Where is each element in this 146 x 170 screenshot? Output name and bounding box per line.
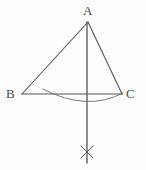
vertex-label-a: A bbox=[83, 4, 92, 17]
construction-drawing bbox=[0, 0, 146, 170]
vertex-label-b: B bbox=[6, 87, 15, 100]
geometry-figure: A B C bbox=[0, 0, 146, 170]
vertex-label-c: C bbox=[126, 87, 135, 100]
figure-background bbox=[0, 0, 146, 170]
